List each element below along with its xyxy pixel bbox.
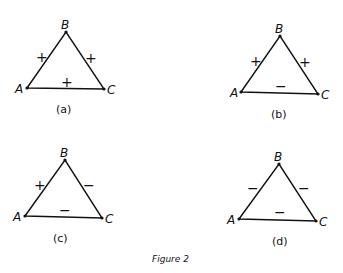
edge-ac-sign: + [61,74,73,90]
vertex-c-dot [100,216,103,219]
triangle-a: B A C + + + (a) [14,18,116,116]
vertex-a-dot [239,90,242,93]
diagram-a-label: (a) [56,103,71,116]
edge-bc-sign: + [85,50,97,66]
vertex-a-dot [237,217,240,220]
edge-bc-sign: − [83,177,95,193]
diagram-b-label: (b) [271,108,287,121]
vertex-a-dot [23,214,26,217]
vertex-c-dot [102,87,105,90]
vertex-a-label: A [12,210,21,224]
diagram-d-label: (d) [272,235,288,248]
edge-bc-sign: − [298,180,310,196]
vertex-a-label: A [229,86,238,100]
vertex-b-label: B [60,146,68,160]
vertex-c-label: C [105,212,114,226]
vertex-c-dot [316,92,319,95]
edge-ac-sign: − [274,204,286,220]
figure-caption: Figure 2 [152,254,189,264]
edge-ac-sign: − [275,78,287,94]
vertex-c-label: C [319,215,328,229]
vertex-b-label: B [275,22,283,36]
diagram-c-label: (c) [53,232,68,245]
vertex-a-label: A [226,213,235,227]
vertex-a-dot [25,86,28,89]
edge-bc-sign: + [299,54,311,70]
triangle-d: B A C − − − (d) [226,150,328,248]
vertex-b-label: B [61,18,69,32]
vertex-c-dot [314,219,317,222]
vertex-c-label: C [321,88,330,102]
edge-ab-sign: + [34,177,46,193]
edge-ac-sign: − [59,202,71,218]
figure-2: B A C + + + (a) B A C + + − (b) B A C + … [0,0,343,273]
vertex-c-label: C [107,83,116,97]
edge-ab-sign: + [250,53,262,69]
triangle-c: B A C + − − (c) [12,146,114,245]
edge-ab-sign: + [36,49,48,65]
vertex-a-label: A [14,82,23,96]
vertex-b-label: B [274,150,282,164]
edge-ab-sign: − [247,180,259,196]
triangle-b: B A C + + − (b) [229,22,330,121]
